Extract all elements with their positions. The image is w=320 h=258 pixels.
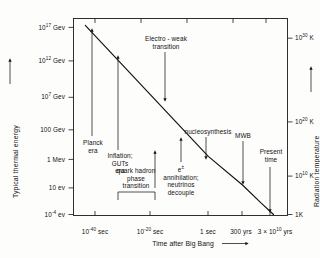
y2-tick-label: 1010 K: [295, 172, 314, 180]
annotation-e-annihilation-neutrinos-decouple: e±annihilation;neutrinosdecouple: [155, 166, 207, 196]
cosmic-thermal-history-figure: 1017 Gev 1012 Gev 107 Gev 100 Gev 1 Mev …: [0, 0, 320, 258]
y-tick-label: 10 ev: [49, 184, 65, 192]
y-tick-label: 10-4 ev: [45, 211, 65, 219]
top-ticks: [95, 19, 266, 24]
x-tick-label: 300 yrs: [230, 228, 252, 236]
annotation-electro-weak-transition: Electro - weaktransition: [138, 35, 194, 50]
y2-axis-title: Radiation temperature: [313, 136, 320, 207]
x-tick-label: 10-40 sec: [82, 228, 108, 236]
y-tick-label: 100 Gev: [40, 126, 65, 134]
x-tick-label: 1 sec: [200, 228, 216, 236]
left-ticks: [69, 27, 74, 214]
x-tick-label: 10-20 sec: [137, 228, 163, 236]
right-ticks: [288, 38, 293, 214]
y-axis-title: Typical thermal energy: [12, 125, 19, 198]
y-tick-label: 1 Mev: [47, 156, 65, 164]
y-tick-label: 1017 Gev: [38, 24, 65, 32]
y-tick-label: 107 Gev: [41, 93, 65, 101]
quark-hadron-bracket: [118, 192, 155, 200]
x-axis-title: Time after Big Bang: [152, 240, 214, 248]
annotation-present-time: Presenttime: [255, 148, 287, 163]
x-tick-label: 3 × 1010 yrs: [258, 228, 293, 236]
y2-tick-label: 1020 K: [295, 118, 314, 126]
y2-tick-label: 1030 K: [295, 34, 314, 42]
y-tick-label: 1012 Gev: [38, 57, 65, 65]
y2-tick-label: 1K: [295, 211, 303, 219]
bottom-ticks: [95, 211, 270, 216]
annotation-nucleosynthesis: nucleosynthesis: [185, 128, 232, 136]
annotation-mwb: MWB: [235, 132, 251, 140]
